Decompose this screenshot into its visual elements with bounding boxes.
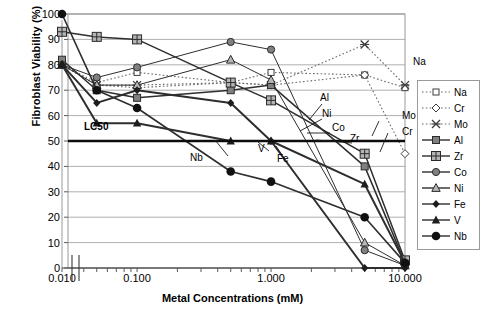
annotation-Fe: Fe bbox=[277, 153, 289, 164]
legend-item-Na[interactable]: Na bbox=[418, 84, 479, 100]
legend-item-Nb[interactable]: Nb bbox=[418, 228, 479, 244]
legend-item-Mo[interactable]: Mo bbox=[418, 116, 479, 132]
legend-label-Nb: Nb bbox=[454, 231, 467, 242]
legend-symbol-Al bbox=[421, 133, 451, 147]
annotation-Zr: Zr bbox=[350, 133, 359, 144]
legend-item-Cr[interactable]: Cr bbox=[418, 100, 479, 116]
legend-symbol-Zr bbox=[421, 149, 451, 163]
legend-label-Zr: Zr bbox=[454, 151, 463, 162]
legend-label-Na: Na bbox=[454, 87, 467, 98]
legend-label-Mo: Mo bbox=[454, 119, 468, 130]
legend: NaCrMoAlZrCoNiFeVNb bbox=[417, 80, 480, 250]
series-Co bbox=[58, 38, 408, 269]
legend-label-Cr: Cr bbox=[454, 103, 465, 114]
legend-symbol-Fe bbox=[421, 197, 451, 211]
legend-label-V: V bbox=[454, 215, 461, 226]
chart-container: Fibroblast Viability (%) Metal Concentra… bbox=[0, 0, 485, 316]
annotation-Cr: Cr bbox=[402, 126, 413, 137]
legend-item-Co[interactable]: Co bbox=[418, 164, 479, 180]
legend-item-Fe[interactable]: Fe bbox=[418, 196, 479, 212]
annotation-Ni: Ni bbox=[322, 108, 331, 119]
legend-symbol-Mo bbox=[421, 117, 451, 131]
annotation-V: V bbox=[258, 143, 265, 154]
legend-symbol-Ni bbox=[421, 181, 451, 195]
annotation-Al: Al bbox=[320, 92, 329, 103]
legend-symbol-Nb bbox=[421, 229, 451, 243]
legend-item-Al[interactable]: Al bbox=[418, 132, 479, 148]
legend-label-Co: Co bbox=[454, 167, 467, 178]
legend-symbol-Co bbox=[421, 165, 451, 179]
legend-label-Al: Al bbox=[454, 135, 463, 146]
plot-area bbox=[0, 0, 485, 316]
legend-item-Zr[interactable]: Zr bbox=[418, 148, 479, 164]
legend-label-Ni: Ni bbox=[454, 183, 463, 194]
annotation-Na: Na bbox=[413, 56, 426, 67]
annotation-Mo: Mo bbox=[402, 110, 416, 121]
legend-item-V[interactable]: V bbox=[418, 212, 479, 228]
legend-symbol-Na bbox=[421, 85, 451, 99]
annotation-Co: Co bbox=[332, 122, 345, 133]
annotation-Nb: Nb bbox=[190, 152, 203, 163]
legend-symbol-V bbox=[421, 213, 451, 227]
legend-label-Fe: Fe bbox=[454, 199, 466, 210]
lc50-label: LC50 bbox=[84, 121, 108, 132]
legend-item-Ni[interactable]: Ni bbox=[418, 180, 479, 196]
legend-symbol-Cr bbox=[421, 101, 451, 115]
series-Al bbox=[59, 56, 409, 266]
